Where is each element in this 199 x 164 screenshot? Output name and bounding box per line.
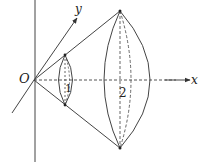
diagram-canvas: O y x 1 2 bbox=[0, 0, 199, 164]
y-axis bbox=[34, 18, 77, 80]
origin-label: O bbox=[19, 71, 30, 86]
solid-2-label: 2 bbox=[119, 86, 127, 100]
cone-upper-line bbox=[34, 11, 120, 80]
y-axis-label: y bbox=[74, 2, 82, 16]
large-lens-top-point bbox=[119, 10, 122, 13]
x-axis-label: x bbox=[191, 73, 198, 87]
small-lens-bottom-point bbox=[64, 104, 67, 107]
large-lens-bottom-point bbox=[119, 147, 122, 150]
small-lens-top-point bbox=[64, 54, 67, 57]
cone-lower-line bbox=[34, 80, 120, 148]
solid-1-label: 1 bbox=[65, 82, 72, 95]
